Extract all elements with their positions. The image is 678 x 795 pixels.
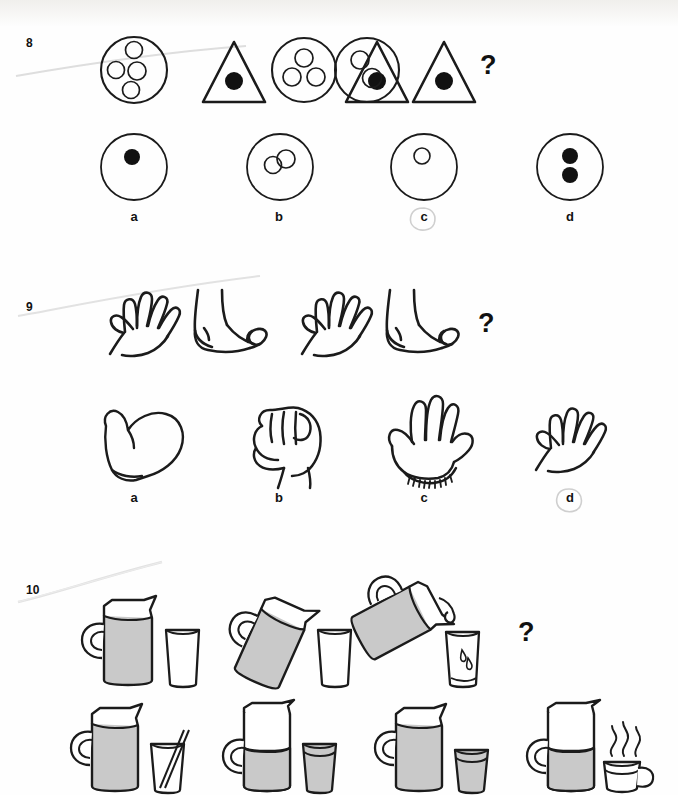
glass-with-drops	[446, 632, 479, 687]
q9-option-d-label: d	[555, 490, 585, 505]
q10-seq-item-1	[66, 588, 216, 690]
jug-full	[375, 704, 446, 791]
q8-seq-item-1	[101, 37, 167, 103]
q8-option-d[interactable]	[534, 130, 606, 204]
q9-option-b-fist[interactable]	[238, 396, 338, 492]
q10-option-b[interactable]	[208, 700, 358, 795]
q9-question-mark: ?	[478, 308, 495, 339]
q10-seq-item-3	[336, 558, 516, 690]
q8-question-mark: ?	[480, 50, 497, 81]
q9-option-b-label: b	[264, 490, 294, 505]
jug-half	[527, 700, 600, 791]
q10-option-c[interactable]	[360, 700, 510, 795]
glass-empty	[166, 630, 199, 687]
glass-full	[455, 750, 488, 793]
q9-option-a-label: a	[119, 490, 149, 505]
q10-option-d[interactable]	[512, 700, 672, 795]
q9-seq-item-4-foot	[378, 284, 468, 362]
q8-option-c[interactable]	[388, 130, 460, 204]
jug-tilted-full	[213, 580, 319, 694]
q8-option-a[interactable]	[98, 130, 170, 204]
q9-seq-item-2-foot	[186, 284, 276, 362]
q8-option-b-label: b	[264, 209, 294, 224]
q10-option-a[interactable]	[56, 700, 206, 795]
q9-option-c-glove[interactable]	[382, 392, 486, 492]
q10-question-mark: ?	[518, 617, 535, 648]
q8-seq-item-5	[335, 38, 399, 102]
worksheet-page: 8	[0, 0, 678, 795]
q8-option-b[interactable]	[244, 130, 316, 204]
jug-pouring	[338, 557, 454, 667]
q9-seq-item-3-hand	[288, 288, 384, 360]
q8-option-a-label: a	[119, 209, 149, 224]
jug-upright-full	[82, 596, 156, 685]
page-top-shadow	[0, 0, 678, 26]
q8-seq-item-2	[203, 42, 265, 102]
q9-seq-item-1-hand	[96, 288, 192, 360]
q8-seq-item-3	[272, 38, 336, 102]
q9-option-a-mitten[interactable]	[86, 396, 194, 488]
steaming-mug	[604, 722, 653, 792]
q8-option-d-label: d	[555, 209, 585, 224]
q9-option-d-hand[interactable]	[524, 398, 620, 478]
q8-option-c-label: c	[409, 209, 439, 224]
glass-full	[303, 744, 336, 793]
jug-half	[223, 700, 294, 791]
q8-seq-item-6	[413, 42, 475, 102]
glass-with-straw	[151, 730, 189, 793]
jug-full	[71, 704, 142, 791]
q9-option-c-label: c	[409, 490, 439, 505]
